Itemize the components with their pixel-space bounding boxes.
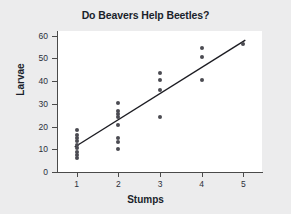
scatter-point — [200, 46, 204, 50]
scatter-point — [241, 42, 245, 46]
regression-line — [0, 0, 291, 214]
chart-figure: Do Beavers Help Beetles? 0102030405060 1… — [0, 0, 291, 214]
scatter-point — [200, 78, 204, 82]
scatter-point — [75, 128, 79, 132]
scatter-point — [158, 78, 162, 82]
scatter-point — [200, 55, 204, 59]
